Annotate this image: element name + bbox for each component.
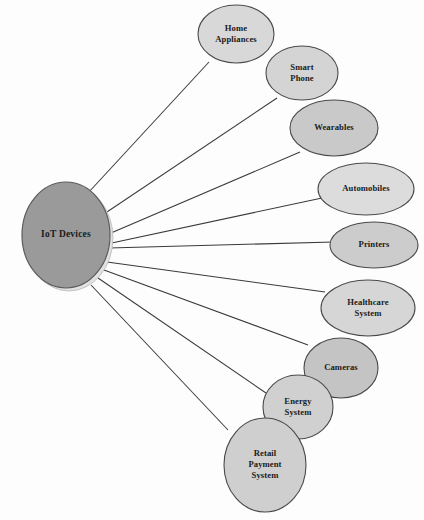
node-printers[interactable]: Printers	[330, 222, 418, 268]
node-label-text: Automobiles	[342, 183, 390, 193]
edge-to-printers	[109, 242, 334, 248]
edge-to-healthcare-system	[107, 262, 325, 292]
node-healthcare-system[interactable]: HealthcareSystem	[321, 280, 415, 336]
node-retail-payment-system[interactable]: RetailPaymentSystem	[224, 418, 306, 512]
node-smart-phone[interactable]: SmartPhone	[266, 46, 338, 100]
node-wearables[interactable]: Wearables	[290, 100, 378, 156]
node-label-text: Wearables	[314, 122, 354, 132]
node-label-text: Cameras	[324, 362, 358, 372]
edge-to-energy-system	[98, 278, 266, 393]
edge-to-cameras	[104, 270, 308, 345]
iot-devices-diagram: IoT Devices HomeAppliancesSmartPhoneWear…	[0, 0, 424, 520]
leaf-nodes-group: HomeAppliancesSmartPhoneWearablesAutomob…	[198, 5, 418, 512]
node-label-text: Printers	[359, 239, 390, 249]
edge-to-retail-payment-system	[91, 285, 228, 430]
diagram-canvas: IoT Devices HomeAppliancesSmartPhoneWear…	[0, 0, 424, 520]
node-home-appliances[interactable]: HomeAppliances	[198, 5, 274, 63]
node-label-text: IoT Devices	[41, 229, 91, 239]
node-automobiles[interactable]: Automobiles	[318, 163, 414, 215]
edge-to-home-appliances	[88, 62, 209, 193]
node-label-text: EnergySystem	[284, 395, 312, 416]
hub-node-group[interactable]: IoT Devices	[22, 182, 113, 291]
node-label-text: SmartPhone	[290, 61, 314, 82]
